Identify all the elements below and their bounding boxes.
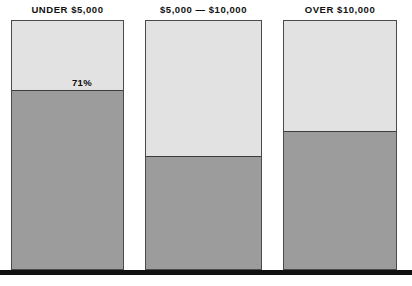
bar-category-label-under-5000: UNDER $5,000 xyxy=(11,4,124,15)
bar-segment-lower-5000-10000 xyxy=(146,156,261,269)
bar-value-label-under-5000: 71% xyxy=(72,77,92,88)
bar-column-under-5000: UNDER $5,000 71% xyxy=(11,0,124,286)
bar-segment-lower-under-5000 xyxy=(12,90,123,269)
bar-column-over-10000: OVER $10,000 54% xyxy=(283,0,397,286)
chart-baseline-rule xyxy=(0,270,412,275)
stacked-bar-chart: UNDER $5,000 71% $5,000 — $10,000 45% OV… xyxy=(0,0,412,286)
bar-category-label-over-10000: OVER $10,000 xyxy=(283,4,397,15)
stacked-bar-5000-10000[interactable] xyxy=(145,20,262,270)
stacked-bar-under-5000[interactable] xyxy=(11,20,124,270)
bar-column-5000-10000: $5,000 — $10,000 45% xyxy=(145,0,262,286)
bar-segment-upper-under-5000 xyxy=(12,21,123,92)
bar-category-label-5000-10000: $5,000 — $10,000 xyxy=(145,4,262,15)
bar-segment-upper-5000-10000 xyxy=(146,21,261,158)
stacked-bar-over-10000[interactable] xyxy=(283,20,397,270)
bar-segment-upper-over-10000 xyxy=(284,21,396,133)
bar-segment-lower-over-10000 xyxy=(284,131,396,269)
